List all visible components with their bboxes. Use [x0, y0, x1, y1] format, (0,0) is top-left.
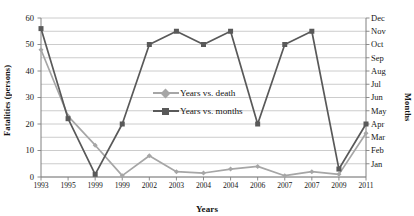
chart-legend: Years vs. death Years vs. months — [153, 84, 285, 120]
square-marker-icon — [162, 108, 169, 115]
legend-item-years-vs-death: Years vs. death — [153, 84, 285, 102]
legend-swatch-months — [153, 105, 179, 117]
diamond-marker-icon — [161, 88, 171, 98]
legend-label-death: Years vs. death — [179, 88, 235, 98]
legend-swatch-death — [153, 87, 179, 99]
legend-item-years-vs-months: Years vs. months — [153, 102, 285, 120]
y-tick-marks-right — [366, 18, 370, 164]
x-tick-marks — [41, 177, 366, 181]
chart-container: Fatalities (persons) Months Years 605040… — [0, 0, 414, 216]
y-tick-marks-left — [38, 18, 42, 177]
legend-label-months: Years vs. months — [179, 106, 243, 116]
